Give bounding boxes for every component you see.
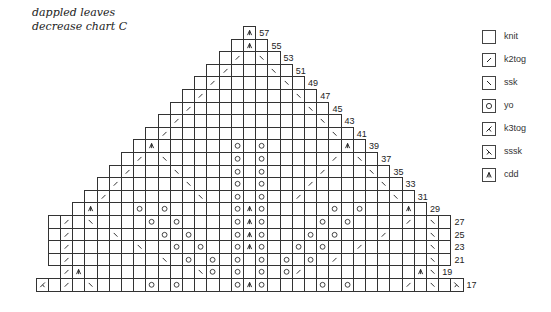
chart-cell-knit: [292, 278, 305, 292]
chart-cell-cdd: [243, 26, 256, 40]
chart-cell-knit: [219, 253, 232, 267]
chart-cell-knit: [206, 278, 219, 292]
chart-cell-knit: [316, 265, 329, 279]
chart-cell-knit: [280, 228, 293, 242]
chart-cell-yo: [255, 215, 268, 229]
chart-cell-knit: [97, 240, 110, 254]
chart-cell-yo: [316, 278, 329, 292]
chart-cell-yo: [231, 215, 244, 229]
chart-cell-knit: [267, 165, 280, 179]
chart-cell-knit: [72, 278, 85, 292]
chart-cell-knit: [292, 228, 305, 242]
chart-cell-k2tog: [219, 64, 232, 78]
chart-cell-knit: [109, 240, 122, 254]
k2tog-icon: [482, 53, 496, 67]
chart-cell-yo: [255, 190, 268, 204]
chart-cell-knit: [438, 240, 451, 254]
chart-cell-knit: [267, 228, 280, 242]
chart-cell-knit: [328, 114, 341, 128]
chart-cell-knit: [194, 165, 207, 179]
chart-cell-k2tog: [292, 265, 305, 279]
chart-cell-yo: [194, 240, 207, 254]
row-number: 55: [271, 41, 281, 51]
chart-cell-cdd: [145, 139, 158, 153]
chart-cell-knit: [414, 278, 427, 292]
chart-cell-knit: [280, 102, 293, 116]
chart-cell-knit: [267, 265, 280, 279]
chart-cell-knit: [158, 139, 171, 153]
chart-cell-knit: [84, 240, 97, 254]
row-number: 53: [284, 53, 294, 63]
chart-cell-knit: [158, 165, 171, 179]
chart-cell-yo: [255, 152, 268, 166]
chart-cell-ssk: [328, 127, 341, 141]
chart-cell-knit: [438, 215, 451, 229]
chart-cell-knit: [194, 127, 207, 141]
chart-cell-knit: [109, 215, 122, 229]
chart-cell-knit: [219, 177, 232, 191]
chart-cell-knit: [316, 139, 329, 153]
chart-cell-knit: [170, 152, 183, 166]
chart-cell-knit: [292, 253, 305, 267]
chart-cell-knit: [389, 278, 402, 292]
chart-cell-yo: [170, 278, 183, 292]
legend-label: k3tog: [504, 123, 526, 133]
chart-cell-knit: [206, 102, 219, 116]
chart-cell-yo: [206, 265, 219, 279]
chart-cell-knit: [158, 215, 171, 229]
chart-cell-cdd: [72, 265, 85, 279]
legend-label: sssk: [504, 146, 522, 156]
chart-cell-knit: [304, 89, 317, 103]
chart-cell-k2tog: [402, 215, 415, 229]
chart-cell-knit: [267, 152, 280, 166]
chart-cell-knit: [353, 228, 366, 242]
chart-cell-knit: [255, 127, 268, 141]
chart-cell-knit: [292, 177, 305, 191]
chart-cell-knit: [267, 139, 280, 153]
knit-icon: [482, 30, 496, 44]
chart-cell-knit: [170, 139, 183, 153]
chart-cell-knit: [231, 114, 244, 128]
chart-cell-knit: [84, 228, 97, 242]
chart-cell-cdd: [402, 202, 415, 216]
chart-cell-knit: [377, 202, 390, 216]
chart-cell-knit: [389, 202, 402, 216]
chart-cell-knit: [328, 177, 341, 191]
chart-cell-yo: [255, 139, 268, 153]
chart-cell-knit: [292, 215, 305, 229]
chart-cell-knit: [255, 39, 268, 53]
sssk-icon: [482, 145, 496, 159]
chart-cell-k2tog: [328, 152, 341, 166]
chart-cell-knit: [133, 278, 146, 292]
chart-cell-ssk: [170, 165, 183, 179]
chart-cell-knit: [292, 76, 305, 90]
chart-cell-cdd: [341, 139, 354, 153]
chart-cell-knit: [219, 51, 232, 65]
chart-cell-knit: [280, 165, 293, 179]
chart-cell-yo: [255, 240, 268, 254]
chart-cell-knit: [133, 215, 146, 229]
chart-cell-ssk: [426, 265, 439, 279]
chart-cell-knit: [438, 228, 451, 242]
chart-cell-k2tog: [206, 76, 219, 90]
chart-cell-knit: [158, 190, 171, 204]
chart-cell-yo: [255, 228, 268, 242]
row-number: 39: [369, 141, 379, 151]
chart-cell-knit: [328, 190, 341, 204]
chart-cell-yo: [145, 278, 158, 292]
chart-cell-yo: [158, 202, 171, 216]
chart-cell-knit: [231, 64, 244, 78]
chart-cell-ssk: [158, 152, 171, 166]
chart-cell-knit: [280, 64, 293, 78]
chart-cell-knit: [84, 265, 97, 279]
chart-cell-knit: [206, 114, 219, 128]
chart-cell-knit: [255, 102, 268, 116]
chart-cell-ssk: [389, 190, 402, 204]
chart-cell-knit: [72, 202, 85, 216]
chart-cell-knit: [219, 89, 232, 103]
row-number: 47: [320, 91, 330, 101]
chart-cell-knit: [206, 165, 219, 179]
chart-cell-k2tog: [133, 152, 146, 166]
legend-label: ssk: [504, 77, 518, 87]
chart-cell-knit: [280, 278, 293, 292]
